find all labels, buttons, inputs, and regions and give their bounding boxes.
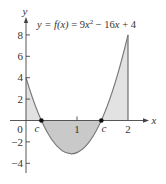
x-axis-arrow-icon [143,118,149,122]
y-tick-label-2: 2 [18,93,24,105]
x-tick-label-2: 2 [125,123,131,135]
y-tick-label-neg2: −2 [11,136,23,148]
root-label-right: c [102,122,107,134]
y-ticks [26,35,30,163]
origin-label: 0 [17,123,23,135]
positive-area-right [101,35,128,121]
y-axis-label: y [22,5,28,17]
y-tick-label-neg4: −4 [11,157,23,169]
equation-label: y = f(x) = 9x2 − 16x + 4 [36,18,137,31]
y-tick-label-8: 8 [18,29,24,41]
root-dot-left [39,118,44,123]
function-graph: 8 6 4 2 −2 −4 0 1 2 c c x y y = f(x) = 9… [0,0,166,184]
x-tick-label-1: 1 [74,123,80,135]
y-tick-label-4: 4 [18,71,24,83]
y-tick-label-6: 6 [18,50,24,62]
root-dot-right [99,118,104,123]
y-axis-arrow-icon [24,17,28,23]
x-axis-label: x [151,114,157,126]
root-label-left: c [35,122,40,134]
